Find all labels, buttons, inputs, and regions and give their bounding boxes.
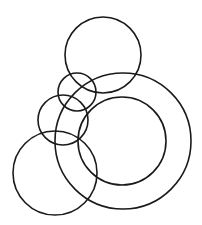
diagram-canvas bbox=[0, 0, 202, 225]
middle-left-circle bbox=[38, 95, 88, 145]
top-circle bbox=[65, 17, 141, 93]
inner-ring bbox=[78, 97, 166, 185]
circles-diagram bbox=[0, 0, 202, 225]
